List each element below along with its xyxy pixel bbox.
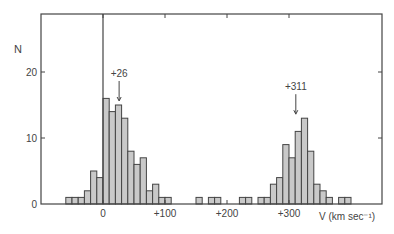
histogram-bar xyxy=(345,197,351,204)
histogram-bar xyxy=(258,197,264,204)
histogram-bar xyxy=(283,145,289,204)
histogram-bar xyxy=(122,118,128,204)
peak-annotations: +26+311 xyxy=(111,68,308,114)
histogram-bar xyxy=(314,184,320,204)
histogram-bar xyxy=(115,105,121,204)
histogram-bar xyxy=(301,118,307,204)
histogram-bar xyxy=(159,197,165,204)
x-axis-label: V (km sec⁻¹) xyxy=(319,211,375,222)
y-axis-ticks: 01020 xyxy=(26,67,382,210)
histogram-bar xyxy=(215,197,221,204)
y-axis-label: N xyxy=(14,43,22,55)
x-tick-label: +100 xyxy=(154,208,177,219)
histogram-bars xyxy=(66,98,351,204)
histogram-bar xyxy=(308,151,314,204)
histogram-bar xyxy=(165,197,171,204)
histogram-bar xyxy=(326,197,332,204)
histogram-chart: 01020 0+100+200+300 +26+311 N V (km sec⁻… xyxy=(0,0,394,234)
histogram-bar xyxy=(289,158,295,204)
histogram-bar xyxy=(91,171,97,204)
histogram-bar xyxy=(134,164,140,204)
histogram-bar xyxy=(239,197,245,204)
histogram-bar xyxy=(109,112,115,204)
peak-label: +26 xyxy=(111,68,128,79)
x-tick-label: +300 xyxy=(278,208,301,219)
histogram-bar xyxy=(128,151,134,204)
y-tick-label: 20 xyxy=(26,67,38,78)
x-tick-label: +200 xyxy=(216,208,239,219)
y-tick-label: 0 xyxy=(31,199,37,210)
histogram-bar xyxy=(72,197,78,204)
histogram-bar xyxy=(295,131,301,204)
histogram-bar xyxy=(153,184,159,204)
histogram-bar xyxy=(146,191,152,204)
histogram-bar xyxy=(339,197,345,204)
histogram-bar xyxy=(270,184,276,204)
histogram-bar xyxy=(66,197,72,204)
histogram-bar xyxy=(140,158,146,204)
y-tick-label: 10 xyxy=(26,133,38,144)
histogram-bar xyxy=(84,191,90,204)
x-tick-label: 0 xyxy=(100,208,106,219)
histogram-bar xyxy=(264,197,270,204)
histogram-bar xyxy=(277,178,283,204)
histogram-bar xyxy=(97,178,103,204)
histogram-bar xyxy=(246,197,252,204)
peak-label: +311 xyxy=(285,81,307,92)
histogram-bar xyxy=(78,197,84,204)
histogram-bar xyxy=(320,191,326,204)
histogram-bar xyxy=(196,197,202,204)
histogram-bar xyxy=(103,98,109,204)
histogram-bar xyxy=(208,197,214,204)
